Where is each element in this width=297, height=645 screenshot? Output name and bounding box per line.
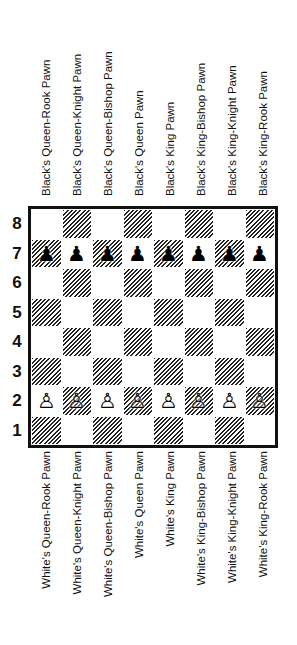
board-square — [62, 416, 93, 446]
board-square: ♙ — [31, 386, 62, 416]
black-pawn-icon: ♟ — [189, 243, 208, 264]
white-pawn-label: White's King-Bishop Pawn — [195, 451, 207, 586]
board-square — [123, 416, 154, 446]
white-pawn-icon: ♙ — [128, 390, 147, 411]
board-square — [185, 210, 214, 238]
board-square: ♟ — [123, 239, 154, 269]
label-cell: White's Queen-Bishop Pawn — [92, 451, 123, 641]
black-pawn-labels: Black's Queen-Rook Pawn Black's Queen-Kn… — [30, 12, 278, 202]
black-pawn-icon: ♟ — [67, 243, 86, 264]
white-pawn-icon: ♙ — [250, 390, 269, 411]
white-pawn-label: White's Queen-Knight Pawn — [71, 451, 83, 594]
board-square — [62, 298, 93, 328]
board-square — [93, 417, 122, 445]
board-square: ♟ — [62, 239, 93, 269]
white-pawn-label: White's King-Knight Pawn — [226, 451, 238, 583]
black-pawn-icon: ♟ — [220, 243, 239, 264]
white-pawn-label: White's Queen Pawn — [133, 451, 145, 558]
white-pawn-label: White's Queen-Bishop Pawn — [102, 451, 114, 597]
label-cell: Black's King-Rook Pawn — [247, 12, 278, 202]
board-square — [154, 358, 183, 386]
board-square — [153, 209, 184, 239]
black-pawn-icon: ♟ — [128, 243, 147, 264]
board-square — [246, 210, 275, 238]
board-square: ♙ — [124, 387, 153, 415]
board-square — [32, 417, 61, 445]
board-square: ♟ — [154, 240, 183, 268]
board-square — [184, 357, 215, 387]
board-square — [214, 209, 245, 239]
rank-number: 4 — [8, 327, 26, 357]
board-square — [93, 299, 122, 327]
board-square — [92, 327, 123, 357]
board-square — [215, 417, 244, 445]
board-square — [63, 210, 92, 238]
black-pawn-label: Black's Queen-Knight Pawn — [71, 54, 83, 196]
board-square — [215, 358, 244, 386]
black-pawn-label: Black's King-Knight Pawn — [226, 65, 238, 196]
rank-number: 6 — [8, 268, 26, 298]
board-square — [31, 327, 62, 357]
board-square — [153, 327, 184, 357]
board-square — [32, 358, 61, 386]
white-pawn-label: White's King Pawn — [164, 451, 176, 547]
chess-board: ♟♟♟♟♟♟♟♟♙♙♙♙♙♙♙♙ — [28, 206, 278, 448]
board-square — [214, 268, 245, 298]
board-square — [245, 298, 276, 328]
board-square: ♟ — [32, 240, 61, 268]
rank-numbers: 8 7 6 5 4 3 2 1 — [8, 209, 26, 445]
white-pawn-icon: ♙ — [37, 390, 56, 411]
board-square — [154, 417, 183, 445]
board-square: ♙ — [185, 387, 214, 415]
board-square — [124, 328, 153, 356]
black-pawn-label: Black's King-Bishop Pawn — [195, 63, 207, 196]
white-pawn-icon: ♙ — [189, 390, 208, 411]
label-cell: White's King-Rook Pawn — [247, 451, 278, 641]
label-cell: Black's King-Knight Pawn — [216, 12, 247, 202]
black-pawn-label: Black's Queen-Bishop Pawn — [102, 51, 114, 196]
board-square — [31, 209, 62, 239]
label-cell: White's Queen-Knight Pawn — [61, 451, 92, 641]
board-square: ♙ — [214, 386, 245, 416]
board-square — [184, 416, 215, 446]
board-square — [92, 268, 123, 298]
black-pawn-label: Black's Queen-Rook Pawn — [40, 60, 52, 196]
label-cell: Black's King-Bishop Pawn — [185, 12, 216, 202]
board-square — [93, 358, 122, 386]
board-square — [246, 269, 275, 297]
rank-number: 8 — [8, 209, 26, 239]
board-square — [63, 269, 92, 297]
rank-number: 3 — [8, 357, 26, 387]
rank-number: 2 — [8, 386, 26, 416]
black-pawn-label: Black's King-Rook Pawn — [257, 71, 269, 196]
black-pawn-icon: ♟ — [98, 243, 117, 264]
rank-number: 7 — [8, 239, 26, 269]
board-square — [185, 328, 214, 356]
white-pawn-icon: ♙ — [220, 390, 239, 411]
board-square — [185, 269, 214, 297]
board-square — [123, 357, 154, 387]
label-cell: White's Queen-Rook Pawn — [30, 451, 61, 641]
black-pawn-icon: ♟ — [37, 243, 56, 264]
board-square: ♟ — [245, 239, 276, 269]
black-pawn-label: Black's Queen Pawn — [133, 90, 145, 196]
white-pawn-labels: White's Queen-Rook Pawn White's Queen-Kn… — [30, 451, 278, 641]
board-square — [153, 268, 184, 298]
label-cell: Black's King Pawn — [154, 12, 185, 202]
board-square: ♟ — [215, 240, 244, 268]
label-cell: Black's Queen Pawn — [123, 12, 154, 202]
board-square — [92, 209, 123, 239]
board-square: ♙ — [246, 387, 275, 415]
board-square — [123, 298, 154, 328]
board-square — [154, 299, 183, 327]
label-cell: White's Queen Pawn — [123, 451, 154, 641]
board-square — [245, 416, 276, 446]
black-pawn-icon: ♟ — [250, 243, 269, 264]
board-square — [124, 269, 153, 297]
white-pawn-label: White's King-Rook Pawn — [257, 451, 269, 577]
board-square: ♟ — [184, 239, 215, 269]
board-square — [63, 328, 92, 356]
board-square — [124, 210, 153, 238]
label-cell: Black's Queen-Rook Pawn — [30, 12, 61, 202]
board-square — [215, 299, 244, 327]
